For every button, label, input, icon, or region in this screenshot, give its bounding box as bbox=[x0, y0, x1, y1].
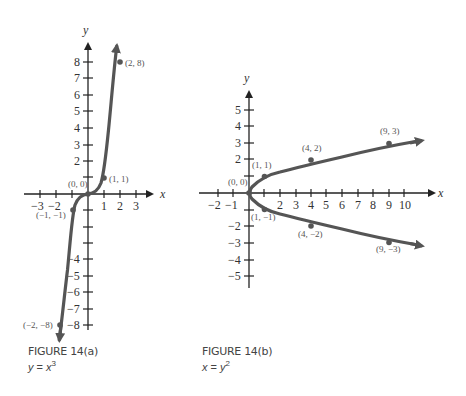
fig-a-xtick: 1 bbox=[101, 199, 107, 213]
fig-a-point-label: (1, 1) bbox=[109, 174, 129, 184]
fig-b-point-label: (1, −1) bbox=[251, 212, 276, 222]
fig-b-ytick: −5 bbox=[228, 269, 241, 283]
fig-b-xtick: 10 bbox=[399, 198, 411, 212]
fig-b-point-label: (1, 1) bbox=[252, 160, 272, 170]
figures-canvas: x y −3 −2 1 2 3 8 7 6 5 4 3 2 −4 −5 −6 −… bbox=[0, 0, 466, 396]
fig-a-ytick: 7 bbox=[74, 71, 80, 85]
fig-a-point-label: (−2, −8) bbox=[23, 320, 53, 330]
fig-a-ytick: 6 bbox=[74, 88, 80, 102]
fig-a-ytick: 2 bbox=[74, 154, 80, 168]
fig-b-caption: FIGURE 14(b) bbox=[202, 345, 272, 358]
fig-a-point-label: (−1, −1) bbox=[36, 210, 66, 220]
fig-b-point-label: (4, −2) bbox=[298, 229, 323, 239]
fig-b-xtick: 6 bbox=[339, 198, 345, 212]
fig-b-ytick: −4 bbox=[228, 253, 241, 267]
fig-b-xtick: −1 bbox=[225, 198, 238, 212]
fig-a-xtick: 3 bbox=[133, 199, 139, 213]
fig-a-y-label: y bbox=[82, 23, 89, 37]
fig-a-caption: FIGURE 14(a) bbox=[28, 345, 98, 358]
fig-b-ytick: 5 bbox=[235, 103, 241, 117]
fig-b-xtick: 7 bbox=[355, 198, 361, 212]
fig-a-point-label: (0, 0) bbox=[68, 179, 88, 189]
fig-b-y-label: y bbox=[243, 71, 250, 85]
fig-b-point-label: (4, 2) bbox=[302, 143, 322, 153]
fig-b-ytick: 3 bbox=[235, 136, 241, 150]
fig-b-ytick: −2 bbox=[228, 219, 241, 233]
fig-b-xtick: 9 bbox=[386, 198, 392, 212]
fig-b-equation: x = y2 bbox=[202, 359, 230, 373]
fig-a-point-label: (2, 8) bbox=[125, 58, 145, 68]
fig-b-xtick: 5 bbox=[323, 198, 329, 212]
figure-a-chart: x y −3 −2 1 2 3 8 7 6 5 4 3 2 −4 −5 −6 −… bbox=[23, 23, 166, 340]
fig-a-ytick: 8 bbox=[74, 55, 80, 69]
fig-a-ytick: 3 bbox=[74, 138, 80, 152]
fig-b-xtick: 3 bbox=[293, 198, 299, 212]
fig-b-xtick: 8 bbox=[370, 198, 376, 212]
fig-a-ytick: 4 bbox=[74, 121, 80, 135]
fig-b-ytick: −3 bbox=[228, 236, 241, 250]
fig-a-ytick: 5 bbox=[74, 104, 80, 118]
fig-b-ytick: 4 bbox=[235, 119, 241, 133]
fig-a-ytick: −8 bbox=[67, 318, 80, 332]
fig-b-xtick: −2 bbox=[208, 198, 221, 212]
fig-a-x-label: x bbox=[159, 187, 166, 201]
fig-b-point-label: (9, 3) bbox=[380, 126, 400, 136]
figure-b-chart: x y −2 −1 2 3 4 5 6 7 8 9 10 5 4 3 2 −2 … bbox=[199, 71, 444, 288]
fig-a-equation: y = x3 bbox=[28, 359, 56, 373]
fig-b-x-label: x bbox=[437, 186, 444, 200]
fig-b-xtick: 4 bbox=[308, 198, 314, 212]
fig-b-xtick: 2 bbox=[277, 198, 283, 212]
fig-b-ytick: 2 bbox=[235, 152, 241, 166]
fig-a-xtick: 2 bbox=[117, 199, 123, 213]
fig-a-ytick: −6 bbox=[67, 285, 80, 299]
fig-a-ytick: −7 bbox=[67, 302, 80, 316]
fig-b-point-label: (0, 0) bbox=[228, 177, 248, 187]
fig-b-point-label: (9, −3) bbox=[376, 244, 401, 254]
